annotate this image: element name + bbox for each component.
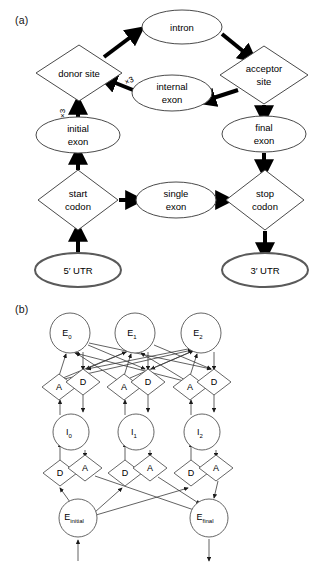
node-I2[interactable]: I2: [184, 414, 220, 450]
node-initial-exon-label-l2: exon: [68, 136, 89, 147]
node-stop-codon-label-l2: codon: [252, 201, 278, 212]
node-E0[interactable]: E0: [50, 313, 90, 353]
node-D2[interactable]: D: [197, 369, 231, 395]
edge-A1-E1: [124, 354, 131, 376]
node-internal-exon-label-l2: exon: [162, 94, 183, 105]
edge-E2-D0: [87, 348, 193, 369]
edge-E2-D1: [151, 350, 195, 369]
edge-A0-E2: [64, 350, 192, 379]
node-D1b[interactable]: D: [108, 460, 142, 486]
node-utr5-label: 5′ UTR: [63, 265, 92, 276]
edge-Einitial-D2b: [96, 488, 188, 515]
node-stop-codon-label-l1: stop: [256, 188, 274, 199]
node-I2-base: I: [197, 427, 200, 437]
svg-text:E0: E0: [62, 328, 72, 339]
node-final-exon[interactable]: final exon: [222, 116, 306, 152]
panel-b-nodes: E0 E1 E2 A D: [42, 313, 233, 537]
node-start-codon-label-l1: start: [69, 188, 88, 199]
edge-A2-E1: [141, 353, 185, 380]
node-E0-base: E: [62, 328, 68, 338]
node-internal-exon[interactable]: internal exon: [132, 75, 212, 111]
node-Einitial[interactable]: Einitial: [59, 499, 97, 537]
edge-A1b-Efinal: [158, 477, 200, 504]
panel-a-label: (a): [15, 14, 28, 26]
node-D1[interactable]: D: [131, 369, 165, 395]
node-A1[interactable]: A: [107, 374, 141, 400]
node-I0[interactable]: I0: [53, 414, 89, 450]
panel-b-label: (b): [15, 303, 28, 315]
edge-A1-E2: [130, 351, 193, 378]
node-E2[interactable]: E2: [181, 313, 221, 353]
node-Efinal-base: E: [196, 512, 202, 522]
edge-A2-E2: [190, 354, 197, 376]
node-E2-base: E: [193, 328, 199, 338]
node-A1b[interactable]: A: [133, 455, 167, 481]
node-E1[interactable]: E1: [115, 313, 155, 353]
node-A2[interactable]: A: [173, 374, 207, 400]
node-D2b[interactable]: D: [174, 460, 208, 486]
node-Efinal[interactable]: Efinal: [190, 499, 228, 537]
svg-text:E1: E1: [127, 328, 137, 339]
node-A0-label: A: [56, 382, 62, 392]
multiplicity-label-initial: ×3: [58, 108, 67, 118]
edge-A0-E0: [59, 354, 66, 376]
node-Einitial-base: E: [64, 512, 70, 522]
svg-text:I2: I2: [197, 427, 204, 438]
svg-text:I0: I0: [66, 427, 73, 438]
node-D0b-label: D: [57, 468, 64, 478]
edge-donor-to-intron: [104, 33, 136, 57]
node-final-exon-label-l1: final: [255, 122, 272, 133]
svg-text:E2: E2: [193, 328, 203, 339]
node-A2b[interactable]: A: [199, 455, 233, 481]
node-donor-site-label: donor site: [58, 68, 100, 79]
edge-A0-E1: [63, 352, 126, 378]
node-I0-base: I: [66, 427, 69, 437]
node-I1[interactable]: I1: [118, 414, 154, 450]
node-utr5[interactable]: 5′ UTR: [35, 253, 121, 287]
node-utr3[interactable]: 3′ UTR: [222, 253, 308, 287]
svg-text:Einitial: Einitial: [64, 512, 84, 523]
node-single-exon[interactable]: single exon: [136, 182, 216, 218]
node-initial-exon[interactable]: initial exon: [36, 117, 120, 153]
node-final-exon-label-l2: exon: [254, 135, 275, 146]
node-A0[interactable]: A: [42, 374, 76, 400]
multiplicity-label-internal: ×3: [123, 75, 135, 87]
node-D2b-label: D: [188, 468, 195, 478]
node-I1-sub: 1: [134, 433, 138, 439]
node-stop-codon[interactable]: stop codon: [226, 170, 304, 230]
node-E2-sub: 2: [199, 334, 203, 340]
node-A1-label: A: [121, 382, 127, 392]
node-acceptor-site[interactable]: acceptor site: [220, 46, 308, 104]
node-A0b[interactable]: A: [68, 455, 102, 481]
svg-text:Efinal: Efinal: [196, 512, 213, 523]
node-start-codon-label-l2: codon: [65, 201, 91, 212]
node-acceptor-site-label-l1: acceptor: [246, 63, 282, 74]
edge-Einitial-D1b: [95, 488, 122, 512]
node-I1-base: I: [131, 427, 134, 437]
node-A1b-label: A: [147, 463, 153, 473]
node-D0[interactable]: D: [66, 369, 100, 395]
node-intron-label: intron: [170, 22, 194, 33]
panel-a: (a): [0, 0, 322, 300]
node-Efinal-sub: final: [203, 518, 214, 524]
panel-a-nodes: intron donor site acceptor site internal: [35, 10, 308, 287]
node-D0b[interactable]: D: [43, 460, 77, 486]
edge-E1-D2: [154, 345, 211, 369]
panel-b-edges: [59, 343, 218, 561]
node-single-exon-label-l1: single: [164, 188, 189, 199]
node-I2-sub: 2: [200, 433, 204, 439]
node-D1-label: D: [145, 377, 152, 387]
node-utr3-label: 3′ UTR: [250, 265, 279, 276]
panel-a-diagram: intron donor site acceptor site internal: [0, 0, 322, 300]
node-start-codon[interactable]: start codon: [38, 170, 118, 230]
node-single-exon-label-l2: exon: [166, 201, 187, 212]
node-D2-label: D: [211, 377, 218, 387]
node-intron[interactable]: intron: [142, 10, 222, 44]
node-E0-sub: 0: [68, 334, 72, 340]
node-A0b-label: A: [82, 463, 88, 473]
node-initial-exon-label-l1: initial: [67, 123, 89, 134]
svg-text:I1: I1: [131, 427, 138, 438]
node-A2b-label: A: [213, 463, 219, 473]
edge-E0-D1: [88, 345, 145, 369]
edge-A0b-Efinal: [95, 476, 197, 511]
